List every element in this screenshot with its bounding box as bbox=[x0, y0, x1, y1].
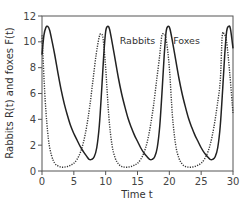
x-axis-label: Time t bbox=[120, 189, 153, 200]
x-tick-label: 30 bbox=[227, 176, 240, 187]
y-tick-label: 6 bbox=[30, 88, 36, 99]
x-tick-label: 25 bbox=[195, 176, 208, 187]
y-tick-label: 12 bbox=[23, 11, 36, 22]
y-tick-label: 0 bbox=[30, 166, 36, 177]
legend-label-foxes: Foxes bbox=[173, 35, 200, 46]
y-tick-label: 4 bbox=[30, 114, 36, 125]
y-tick-label: 2 bbox=[30, 140, 36, 151]
series-rabbits-line bbox=[42, 32, 233, 167]
x-tick-label: 10 bbox=[99, 176, 112, 187]
predator-prey-chart: 024681012 051015202530 RabbitsFoxes Time… bbox=[0, 0, 249, 208]
y-axis-label: Rabbits R(t) and foxes F(t) bbox=[4, 27, 15, 159]
legend-annotations: RabbitsFoxes bbox=[120, 35, 200, 46]
x-tick-label: 5 bbox=[71, 176, 77, 187]
series-layer bbox=[42, 26, 233, 167]
x-tick-label: 0 bbox=[39, 176, 45, 187]
y-tick-label: 8 bbox=[30, 62, 36, 73]
legend-label-rabbits: Rabbits bbox=[120, 35, 156, 46]
x-tick-label: 15 bbox=[131, 176, 144, 187]
x-tick-label: 20 bbox=[163, 176, 176, 187]
y-axis-ticks: 024681012 bbox=[23, 11, 42, 177]
x-axis-ticks: 051015202530 bbox=[39, 171, 240, 187]
y-tick-label: 10 bbox=[23, 36, 36, 47]
